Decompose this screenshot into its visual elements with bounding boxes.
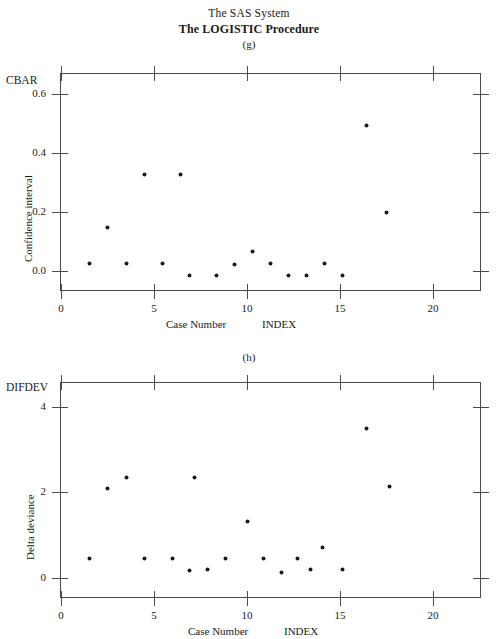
data-point (188, 274, 191, 277)
data-point (269, 262, 272, 265)
data-point (287, 274, 290, 277)
panel-g-xtick-label-0: 0 (41, 302, 81, 314)
data-point (365, 427, 368, 430)
panel-h-xtick-label-0: 0 (41, 609, 81, 621)
panel-h-label: (h) (0, 351, 498, 363)
panel-g-data-layer (61, 74, 480, 290)
data-point (143, 173, 146, 176)
data-point (143, 557, 146, 560)
panel-h-xtick-top-15 (340, 375, 341, 390)
data-point (388, 485, 391, 488)
panel-h-xtick-top-10 (247, 375, 248, 390)
panel-g-xtick-label-20: 20 (413, 302, 453, 314)
panel-h-xtick-top-20 (433, 375, 434, 390)
panel-h-data-layer (61, 383, 480, 597)
data-point (309, 568, 312, 571)
panel-h-xtick-10 (247, 591, 248, 606)
panel-g-xtick-5 (154, 284, 155, 299)
panel-h-xtick-label-20: 20 (413, 609, 453, 621)
data-point (280, 571, 283, 574)
data-point (246, 520, 249, 523)
panel-g-ytick-label-0: 0.6 (2, 87, 46, 99)
panel-h-xtick-label-10: 10 (227, 609, 267, 621)
data-point (262, 557, 265, 560)
report-titles: The SAS System The LOGISTIC Procedure (g… (0, 6, 498, 52)
data-point (106, 487, 109, 490)
data-point (251, 250, 254, 253)
data-point (206, 568, 209, 571)
data-point (215, 274, 218, 277)
data-point (323, 262, 326, 265)
panel-h-ytick-4 (52, 407, 68, 408)
data-point (224, 557, 227, 560)
panel-g-ytick-right-0.0 (473, 271, 489, 272)
panel-g-xtick-top-0 (61, 66, 62, 81)
panel-h-xtick-label-5: 5 (134, 609, 174, 621)
panel-h-xtick-15 (340, 591, 341, 606)
panel-h-plot-frame (60, 382, 481, 598)
data-point (171, 557, 174, 560)
panel-g-ytick-0.4 (52, 153, 68, 154)
data-point (341, 274, 344, 277)
panel-h-xtick-20 (433, 591, 434, 606)
panel-h-ytick-right-0 (473, 578, 489, 579)
panel-g-ytick-right-0.4 (473, 153, 489, 154)
data-point (193, 476, 196, 479)
panel-h-xtick-5 (154, 591, 155, 606)
panel-g-ytick-0.2 (52, 212, 68, 213)
panel-h-ytick-2 (52, 492, 68, 493)
data-point (188, 569, 191, 572)
data-point (233, 263, 236, 266)
panel-h-y-axis-title: Delta deviance (24, 494, 36, 560)
sas-output-page: The SAS System The LOGISTIC Procedure (g… (0, 0, 498, 639)
procedure-title: The LOGISTIC Procedure (0, 21, 498, 37)
data-point (365, 124, 368, 127)
panel-g-corner-label: CBAR (6, 74, 37, 86)
panel-h-xtick-top-5 (154, 375, 155, 390)
data-point (88, 557, 91, 560)
panel-g-label: (g) (0, 37, 498, 52)
panel-g-ytick-label-3: 0.0 (2, 264, 46, 276)
data-point (305, 274, 308, 277)
data-point (88, 262, 91, 265)
data-point (161, 262, 164, 265)
panel-h-xtick-0 (61, 591, 62, 606)
panel-h-ytick-label-4: 4 (2, 400, 46, 412)
panel-g-plot-frame (60, 73, 481, 291)
panel-h-ytick-0 (52, 578, 68, 579)
data-point (125, 262, 128, 265)
panel-g-ytick-label-1: 0.4 (2, 146, 46, 158)
panel-g-xtick-top-20 (433, 66, 434, 81)
panel-g-xtick-top-15 (340, 66, 341, 81)
panel-g-xtick-top-10 (247, 66, 248, 81)
panel-g-x-axis-variable: INDEX (262, 318, 296, 330)
panel-h-ytick-label-0: 0 (2, 571, 46, 583)
panel-g-y-axis-title: Confidence interval (22, 175, 34, 262)
panel-h-x-axis-title: Case Number (188, 625, 248, 637)
panel-g-ytick-right-0.2 (473, 212, 489, 213)
panel-g-ytick-label-2: 0.2 (2, 205, 46, 217)
panel-h-x-axis-variable: INDEX (284, 625, 318, 637)
panel-g-xtick-15 (340, 284, 341, 299)
panel-h-xtick-top-0 (61, 375, 62, 390)
panel-g-xtick-10 (247, 284, 248, 299)
panel-g-x-axis-title: Case Number (166, 318, 226, 330)
data-point (385, 211, 388, 214)
data-point (125, 476, 128, 479)
panel-g-xtick-label-15: 15 (320, 302, 360, 314)
panel-h-ytick-right-4 (473, 407, 489, 408)
page-title: The SAS System (0, 6, 498, 21)
data-point (179, 173, 182, 176)
panel-h-corner-label: DIFDEV (6, 381, 48, 393)
data-point (296, 557, 299, 560)
data-point (106, 226, 109, 229)
panel-g-ytick-0.0 (52, 271, 68, 272)
panel-g-xtick-label-10: 10 (227, 302, 267, 314)
panel-g-xtick-0 (61, 284, 62, 299)
panel-g-xtick-label-5: 5 (134, 302, 174, 314)
panel-g-xtick-top-5 (154, 66, 155, 81)
panel-g-xtick-20 (433, 284, 434, 299)
data-point (321, 546, 324, 549)
panel-g-ytick-right-0.6 (473, 94, 489, 95)
panel-h-ytick-right-2 (473, 492, 489, 493)
